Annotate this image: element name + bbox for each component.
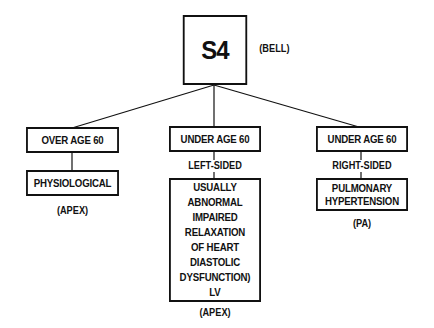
detail-line: LV	[209, 285, 220, 300]
branch-header: UNDER AGE 60	[328, 133, 397, 145]
root-note: (BELL)	[259, 43, 289, 54]
s4-diagram: S4 (BELL) OVER AGE 60 PHYSIOLOGICAL (APE…	[0, 0, 434, 328]
left-sided-label: LEFT-SIDED	[169, 160, 261, 171]
branch-header: OVER AGE 60	[41, 134, 103, 146]
detail-line: HYPERTENSION	[325, 195, 399, 208]
detail-line: DIASTOLIC	[190, 255, 240, 270]
detail-line: RELAXATION	[185, 225, 245, 240]
detail-line: DYSFUNCTION)	[180, 270, 251, 285]
location-apex-left: (APEX)	[26, 205, 119, 216]
detail-line: IMPAIRED	[192, 210, 237, 225]
branch-under-age-60-left: UNDER AGE 60	[169, 126, 261, 152]
detail-line: ABNORMAL	[188, 195, 243, 210]
location-apex-center: (APEX)	[169, 307, 261, 318]
left-sided-detail-node: USUALLY ABNORMAL IMPAIRED RELAXATION OF …	[169, 178, 261, 302]
branch-under-age-60-right: UNDER AGE 60	[316, 126, 408, 152]
detail-line: PHYSIOLOGICAL	[34, 177, 112, 189]
pulmonary-hypertension-node: PULMONARY HYPERTENSION	[316, 178, 408, 211]
location-pa: (PA)	[316, 218, 408, 229]
branch-header: UNDER AGE 60	[181, 133, 250, 145]
detail-line: OF HEART	[191, 240, 239, 255]
branch-over-age-60: OVER AGE 60	[26, 127, 119, 153]
detail-line: USUALLY	[193, 180, 236, 195]
detail-line: PULMONARY	[332, 182, 392, 195]
root-title: S4	[201, 35, 228, 66]
root-node-s4: S4	[183, 15, 247, 85]
physiological-node: PHYSIOLOGICAL	[26, 170, 119, 196]
right-sided-label: RIGHT-SIDED	[316, 160, 408, 171]
